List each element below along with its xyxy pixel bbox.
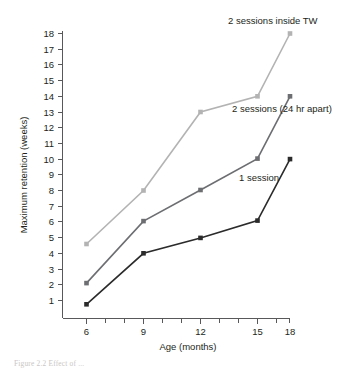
- data-point-marker: [198, 236, 203, 241]
- y-tick-label: 17: [43, 44, 54, 55]
- series-line: [87, 34, 291, 245]
- series-label-1-session: 1 session: [239, 172, 279, 183]
- retention-line-chart: 18 17 16 15 14 13 12 11 10 9 8 7 6 5 4 3…: [0, 0, 359, 368]
- y-tick-label: 16: [43, 59, 54, 70]
- y-axis-tick-labels: 18 17 16 15 14 13 12 11 10 9 8 7 6 5 4 3…: [43, 28, 54, 306]
- y-tick-label: 7: [49, 201, 54, 212]
- x-tick-label: 9: [141, 326, 146, 337]
- series-line: [87, 96, 291, 283]
- x-tick-label: 6: [84, 326, 89, 337]
- y-tick-label: 15: [43, 75, 54, 86]
- y-axis-title: Maximum retention (weeks): [18, 117, 29, 234]
- y-tick-label: 6: [49, 216, 54, 227]
- data-point-marker: [255, 94, 260, 99]
- y-tick-label: 18: [43, 28, 54, 39]
- data-point-marker: [288, 94, 293, 99]
- figure-caption: Figure 2.2 Effect of ...: [14, 359, 84, 368]
- data-point-marker: [198, 110, 203, 115]
- x-tick-label: 15: [252, 326, 263, 337]
- data-point-marker: [84, 281, 89, 286]
- y-tick-label: 1: [49, 295, 54, 306]
- data-point-marker: [141, 251, 146, 256]
- y-tick-label: 2: [49, 279, 54, 290]
- y-tick-label: 11: [44, 138, 54, 149]
- data-point-marker: [255, 156, 260, 161]
- x-tick-label: 18: [285, 326, 296, 337]
- x-tick-label: 12: [195, 326, 206, 337]
- x-axis-title: Age (months): [159, 341, 216, 352]
- data-point-marker: [288, 157, 293, 162]
- y-tick-label: 8: [49, 185, 54, 196]
- data-point-marker: [198, 188, 203, 193]
- series-label-2-sessions-inside-tw: 2 sessions inside TW: [228, 15, 318, 26]
- figure-container: 18 17 16 15 14 13 12 11 10 9 8 7 6 5 4 3…: [0, 0, 359, 368]
- data-point-marker: [84, 242, 89, 247]
- series-label-2-sessions-24hr-apart: 2 sessions (24 hr apart): [232, 103, 332, 114]
- data-point-marker: [288, 31, 293, 36]
- x-axis-ticks: [87, 319, 290, 325]
- y-tick-label: 10: [43, 154, 54, 165]
- y-tick-label: 12: [43, 122, 54, 133]
- y-tick-label: 13: [43, 107, 54, 118]
- data-point-marker: [84, 302, 89, 307]
- series-2-sessions-24hr-apart: [84, 94, 292, 285]
- data-point-marker: [141, 219, 146, 224]
- y-tick-label: 3: [49, 264, 54, 275]
- y-tick-label: 4: [49, 248, 54, 259]
- y-tick-label: 5: [49, 232, 54, 243]
- y-tick-label: 9: [49, 169, 54, 180]
- y-tick-label: 14: [43, 91, 54, 102]
- data-point-marker: [141, 188, 146, 193]
- x-axis-tick-labels: 6 9 12 15 18: [84, 326, 295, 337]
- data-point-marker: [255, 218, 260, 223]
- y-axis-ticks: [58, 34, 63, 301]
